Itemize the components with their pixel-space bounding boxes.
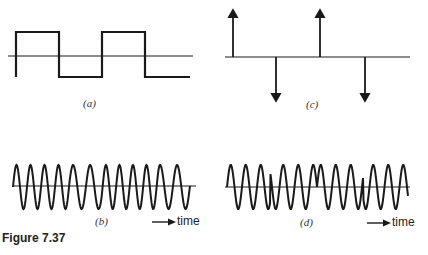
fsk-wave-path — [13, 165, 190, 209]
panel-d-label: (d) — [300, 216, 313, 228]
square-wave-path — [16, 32, 190, 77]
time-label-b: time — [177, 214, 200, 228]
arrow-up-icon — [316, 10, 324, 17]
arrow-right-icon — [168, 219, 176, 226]
arrow-up-icon — [229, 10, 237, 17]
panel-a-label: (a) — [83, 97, 96, 109]
time-label-d: time — [392, 215, 415, 229]
panel-d-psk-wave — [225, 165, 410, 209]
panel-c-label: (c) — [306, 98, 318, 110]
time-arrow-b — [152, 219, 176, 226]
arrow-right-icon — [383, 220, 391, 227]
arrow-down-icon — [272, 94, 280, 101]
arrow-down-icon — [361, 94, 369, 101]
figure-canvas — [0, 0, 428, 255]
panel-c-impulse-train — [225, 10, 410, 101]
panel-a-square-wave — [8, 32, 193, 77]
panel-b-label: (b) — [95, 215, 108, 227]
time-arrow-d — [367, 220, 391, 227]
figure-caption: Figure 7.37 — [2, 231, 65, 245]
panel-b-fsk-wave — [13, 165, 196, 209]
